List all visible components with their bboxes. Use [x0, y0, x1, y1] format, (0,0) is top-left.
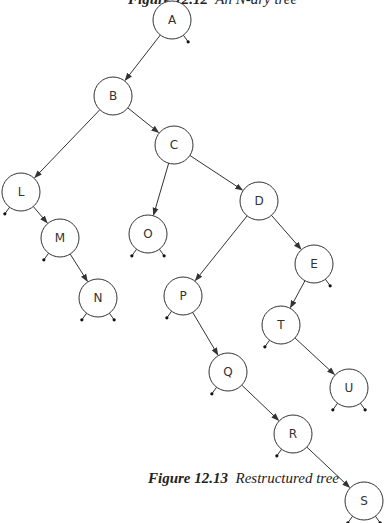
null-pointer-dot: [210, 392, 213, 395]
tree-node-M: M: [41, 219, 79, 261]
node-label: T: [276, 318, 285, 332]
edge-B-L: [35, 110, 100, 178]
node-label: A: [168, 13, 177, 27]
edge-L-M: [33, 206, 47, 222]
node-label: Q: [223, 365, 232, 379]
null-pointer-dot: [3, 212, 6, 215]
node-label: R: [289, 427, 297, 441]
node-label: P: [179, 289, 186, 303]
null-pointer-dot: [263, 345, 266, 348]
tree-node-B: B: [94, 77, 132, 115]
tree-node-Q: Q: [209, 353, 247, 395]
tree-node-D: D: [240, 182, 278, 220]
node-label: B: [109, 89, 117, 103]
null-pointer-dot: [331, 408, 334, 411]
edge-D-P: [195, 216, 247, 281]
figure-caption-bottom: Figure 12.13 Restructured tree: [148, 470, 339, 487]
node-label: E: [310, 257, 318, 271]
edge-E-T: [291, 281, 305, 308]
node-label: L: [18, 185, 25, 199]
null-pointer-dot: [165, 316, 168, 319]
edge-D-E: [271, 215, 300, 249]
null-pointer-dot: [187, 40, 190, 43]
tree-node-R: R: [274, 415, 312, 457]
edge-C-O: [154, 163, 169, 215]
tree-node-P: P: [164, 277, 202, 319]
tree-node-T: T: [262, 306, 300, 348]
edge-B-C: [128, 108, 159, 133]
tree-node-O: O: [129, 215, 167, 257]
figure-number: Figure 12.13: [148, 470, 228, 486]
null-pointer-dot: [163, 254, 166, 257]
null-pointer-dot: [329, 284, 332, 287]
node-label: C: [170, 138, 178, 152]
node-label: O: [143, 227, 152, 241]
null-pointer-dot: [113, 318, 116, 321]
node-label: U: [345, 381, 354, 395]
figure-title: Restructured tree: [236, 470, 339, 486]
null-pointer-dot: [130, 254, 133, 257]
node-label: D: [254, 194, 263, 208]
restructured-tree-diagram: ABCLMODNPETQURS: [0, 0, 389, 523]
tree-node-S: S: [345, 482, 383, 523]
tree-node-U: U: [330, 369, 368, 411]
tree-node-C: C: [155, 126, 193, 164]
edge-M-N: [70, 254, 87, 281]
null-pointer-dot: [80, 318, 83, 321]
node-label: S: [360, 494, 368, 508]
tree-node-N: N: [79, 279, 117, 321]
edge-C-D: [190, 155, 242, 190]
node-label: M: [55, 231, 65, 245]
tree-node-E: E: [295, 245, 333, 287]
tree-node-L: L: [2, 173, 40, 215]
tree-nodes: ABCLMODNPETQURS: [2, 1, 383, 523]
edge-P-Q: [193, 312, 218, 354]
edge-A-B: [125, 35, 160, 80]
node-label: N: [94, 291, 103, 305]
null-pointer-dot: [42, 258, 45, 261]
null-pointer-dot: [364, 408, 367, 411]
null-pointer-dot: [275, 454, 278, 457]
edge-T-U: [295, 338, 334, 374]
edge-Q-R: [242, 385, 279, 420]
